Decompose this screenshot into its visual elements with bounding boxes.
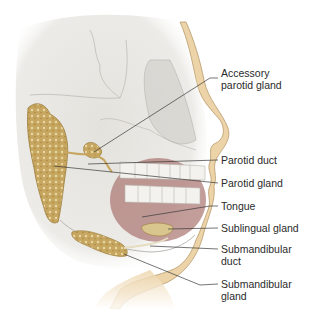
label-submandibular-gland: Submandibular gland (221, 278, 292, 302)
label-submandibular-duct: Submandibular duct (221, 243, 292, 267)
label-parotid-gland: Parotid gland (221, 177, 283, 189)
label-parotid-duct: Parotid duct (221, 154, 277, 166)
label-tongue: Tongue (221, 200, 255, 212)
anatomy-figure: Accessory parotid gland Parotid duct Par… (0, 0, 311, 309)
label-sublingual-gland: Sublingual gland (221, 222, 299, 234)
label-accessory-parotid-gland: Accessory parotid gland (221, 67, 282, 91)
